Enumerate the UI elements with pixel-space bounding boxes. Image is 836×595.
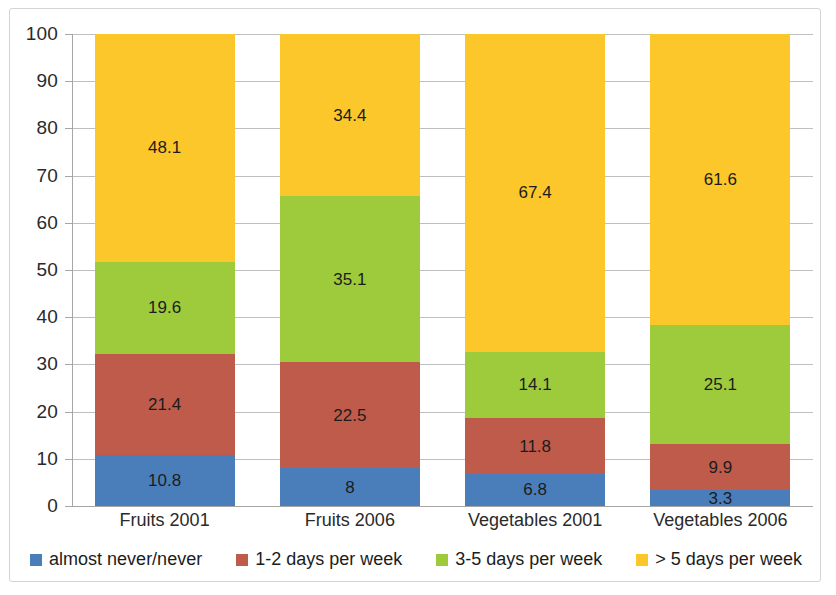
bar-segment-value-label: 25.1 [704,376,737,393]
bar-segment[interactable]: 19.6 [95,262,235,355]
bar-segment[interactable]: 34.4 [280,34,420,196]
y-tick-mark-100 [65,34,72,35]
bar-segment[interactable]: 10.8 [95,455,235,506]
y-axis-label-80: 80 [36,117,58,139]
bar-group-2[interactable]: 822.535.134.4Fruits 2006 [280,34,420,506]
legend-swatch-icon [30,554,42,566]
y-axis-line [72,34,73,506]
bar-group-1[interactable]: 10.821.419.648.1Fruits 2001 [95,34,235,506]
bar-segment-value-label: 21.4 [148,396,181,413]
legend-swatch-icon [636,554,648,566]
bar-stack: 822.535.134.4 [280,34,420,506]
chart-container: 0102030405060708090100 10.821.419.648.1F… [9,8,821,582]
bar-segment-value-label: 11.8 [519,438,551,455]
x-axis-category-label: Fruits 2006 [280,510,420,531]
y-tick-mark-40 [65,317,72,318]
bar-segment-value-label: 19.6 [148,299,181,316]
bar-segment[interactable]: 22.5 [280,362,420,468]
bar-segment[interactable]: 21.4 [95,354,235,455]
bar-segment[interactable]: 35.1 [280,196,420,362]
x-axis-category-label: Fruits 2001 [95,510,235,531]
y-tick-mark-30 [65,364,72,365]
legend-item-3[interactable]: 3-5 days per week [436,549,602,570]
y-axis-label-90: 90 [36,70,58,92]
bar-segment-value-label: 67.4 [519,184,552,201]
bar-segment-value-label: 3.3 [709,490,733,507]
x-axis-category-label: Vegetables 2001 [465,510,605,531]
bar-segment[interactable]: 61.6 [650,34,790,325]
bar-segment[interactable]: 11.8 [465,418,605,474]
y-tick-mark-0 [65,506,72,507]
bar-group-4[interactable]: 3.39.925.161.6Vegetables 2006 [650,34,790,506]
y-axis-label-60: 60 [36,212,58,234]
legend-label: > 5 days per week [655,549,802,570]
bar-segment[interactable]: 67.4 [465,34,605,352]
y-axis-label-20: 20 [36,401,58,423]
bar-segment-value-label: 61.6 [704,171,737,188]
y-axis-label-100: 100 [26,23,58,45]
y-axis-label-40: 40 [36,306,58,328]
bar-stack: 6.811.814.167.4 [465,34,605,506]
bar-segment[interactable]: 6.8 [465,474,605,506]
y-axis-label-70: 70 [36,165,58,187]
bar-stack: 10.821.419.648.1 [95,34,235,506]
legend-swatch-icon [436,554,448,566]
bar-segment-value-label: 9.9 [709,459,733,476]
y-tick-mark-20 [65,412,72,413]
legend-label: almost never/never [49,549,202,570]
y-axis-label-10: 10 [36,448,58,470]
x-axis-category-label: Vegetables 2006 [650,510,790,531]
y-axis-label-30: 30 [36,353,58,375]
bar-segment-value-label: 48.1 [148,139,181,156]
bar-segment-value-label: 8 [345,479,354,496]
bar-segment[interactable]: 48.1 [95,34,235,261]
bar-segment-value-label: 34.4 [333,107,366,124]
y-tick-mark-10 [65,459,72,460]
y-tick-mark-80 [65,128,72,129]
plot-area: 0102030405060708090100 10.821.419.648.1F… [72,34,813,506]
chart-legend: almost never/never1-2 days per week3-5 d… [10,549,822,570]
y-tick-mark-50 [65,270,72,271]
bar-group-3[interactable]: 6.811.814.167.4Vegetables 2001 [465,34,605,506]
bar-segment[interactable]: 14.1 [465,352,605,419]
bar-segment[interactable]: 3.3 [650,490,790,506]
bar-segment-value-label: 10.8 [148,472,181,489]
bar-segment[interactable]: 25.1 [650,325,790,443]
legend-swatch-icon [236,554,248,566]
y-tick-mark-90 [65,81,72,82]
legend-label: 1-2 days per week [255,549,402,570]
bar-stack: 3.39.925.161.6 [650,34,790,506]
legend-label: 3-5 days per week [455,549,602,570]
bar-segment-value-label: 35.1 [333,271,366,288]
y-tick-mark-70 [65,176,72,177]
y-tick-mark-60 [65,223,72,224]
bar-segment[interactable]: 9.9 [650,444,790,491]
legend-item-4[interactable]: > 5 days per week [636,549,802,570]
bar-segment[interactable]: 8 [280,468,420,506]
legend-item-1[interactable]: almost never/never [30,549,202,570]
y-axis-label-50: 50 [36,259,58,281]
bar-segment-value-label: 22.5 [333,407,366,424]
x-axis-line [72,506,813,507]
bar-segment-value-label: 14.1 [519,376,552,393]
y-axis-label-0: 0 [47,495,58,517]
bar-segment-value-label: 6.8 [523,481,547,498]
legend-item-2[interactable]: 1-2 days per week [236,549,402,570]
